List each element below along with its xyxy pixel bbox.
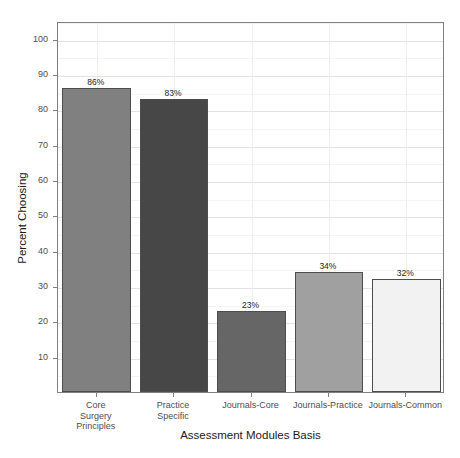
- bar-value-label: 23%: [231, 300, 271, 310]
- bar-chart-figure: Percent Choosing 102030405060708090100 8…: [0, 0, 460, 458]
- y-tick-label: 80: [15, 104, 48, 114]
- y-tick-label: 60: [15, 175, 48, 185]
- y-tick-label: 100: [15, 34, 48, 44]
- gridline-minor: [58, 58, 443, 59]
- x-tick-label: Practice Specific: [131, 400, 214, 421]
- gridline-major: [58, 76, 443, 77]
- gridline-major: [58, 41, 443, 42]
- bar: [217, 311, 285, 392]
- x-tick-label: Core Surgery Principles: [54, 400, 137, 432]
- bar: [140, 99, 208, 392]
- bar: [372, 279, 440, 392]
- bar: [62, 88, 130, 392]
- gridline-minor: [58, 23, 443, 24]
- y-tick-label: 30: [15, 281, 48, 291]
- x-tick-label: Journals-Practice: [286, 400, 369, 411]
- x-axis-title: Assessment Modules Basis: [57, 429, 444, 441]
- x-tick-mark: [173, 393, 174, 397]
- x-tick-mark: [328, 393, 329, 397]
- y-tick-label: 70: [15, 140, 48, 150]
- bar-value-label: 86%: [76, 77, 116, 87]
- bar: [295, 272, 363, 392]
- y-tick-label: 20: [15, 316, 48, 326]
- x-tick-mark: [405, 393, 406, 397]
- bar-value-label: 83%: [153, 88, 193, 98]
- y-tick-label: 10: [15, 352, 48, 362]
- bar-value-label: 34%: [308, 261, 348, 271]
- y-tick-label: 40: [15, 246, 48, 256]
- x-tick-label: Journals-Common: [364, 400, 447, 411]
- y-axis-title-container: Percent Choosing: [0, 22, 16, 392]
- y-tick-label: 50: [15, 210, 48, 220]
- x-tick-mark: [251, 393, 252, 397]
- x-tick-mark: [96, 393, 97, 397]
- bar-value-label: 32%: [385, 268, 425, 278]
- y-tick-label: 90: [15, 69, 48, 79]
- x-tick-label: Journals-Core: [209, 400, 292, 411]
